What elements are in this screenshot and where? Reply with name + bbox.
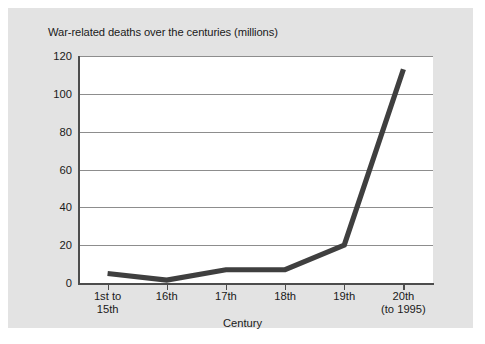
- gridline: [78, 56, 433, 57]
- y-axis-tick-labels: 020406080100120: [30, 0, 72, 344]
- gridline: [78, 245, 433, 246]
- gridline: [78, 132, 433, 133]
- gridline: [78, 170, 433, 171]
- x-axis-tick-label: 17th: [215, 290, 237, 303]
- plot-area: [78, 56, 433, 283]
- y-axis-line: [78, 56, 80, 284]
- y-axis-tick-label: 100: [36, 88, 72, 100]
- gridline: [78, 207, 433, 208]
- chart-title: War-related deaths over the centuries (m…: [48, 26, 278, 38]
- x-axis-tick-label: 1st to 15th: [94, 290, 121, 315]
- x-axis-tick-label: 19th: [333, 290, 355, 303]
- y-axis-tick-label: 60: [36, 164, 72, 176]
- x-axis-tick-label: 20th (to 1995): [381, 290, 426, 315]
- y-axis-tick-label: 80: [36, 126, 72, 138]
- x-axis-tick-label: 18th: [274, 290, 296, 303]
- x-axis-line: [78, 283, 434, 285]
- x-axis-title: Century: [0, 317, 485, 329]
- x-axis-tick-label: 16th: [156, 290, 178, 303]
- y-axis-tick-label: 120: [36, 50, 72, 62]
- y-axis-tick-label: 0: [36, 277, 72, 289]
- gridline: [78, 94, 433, 95]
- y-axis-tick-label: 40: [36, 201, 72, 213]
- y-axis-tick-label: 20: [36, 239, 72, 251]
